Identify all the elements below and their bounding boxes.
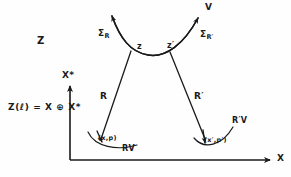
label-base-point: (x,p): [98, 135, 117, 142]
label-base-point-prime: (x′,p′): [204, 137, 227, 144]
label-sigma-rprime: ΣR′: [200, 30, 213, 41]
diagram-vector-layer: [0, 0, 291, 177]
sigma-r-subscript: R: [104, 32, 109, 40]
label-equation: Z(ℓ) = X ⊕ X*: [8, 103, 81, 112]
label-fibre-rprime-v: R′V: [232, 117, 247, 125]
label-point-z: z: [137, 43, 142, 51]
top-curve-v: [112, 16, 198, 55]
label-y-axis: X*: [62, 71, 74, 80]
label-space-z: Z: [37, 36, 45, 46]
top-curve-v-right-tip: [112, 16, 198, 55]
figure-canvas: Z Z(ℓ) = X ⊕ X* V ΣR ΣR′ z z′ R R′ RV R′…: [0, 0, 291, 177]
label-sigma-r: ΣR: [98, 29, 109, 40]
label-section-r: R: [100, 92, 107, 101]
label-fibre-rv: RV: [122, 145, 135, 153]
label-top-curve-v: V: [205, 3, 212, 12]
label-x-axis: X: [277, 154, 284, 163]
sigma-rprime-subscript: R′: [206, 33, 213, 41]
label-section-rprime: R′: [194, 92, 204, 101]
label-point-zprime: z′: [167, 42, 174, 50]
